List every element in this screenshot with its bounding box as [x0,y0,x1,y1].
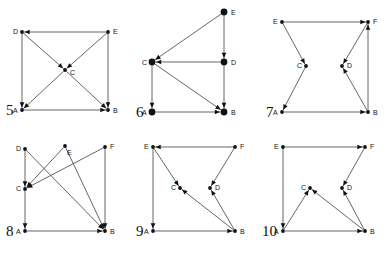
node-label-C: C [142,59,147,66]
node-dot-C [178,186,182,190]
arrowhead-D-to-A [20,102,25,107]
arrowhead-A-to-B [227,229,232,234]
node-E[interactable]: E [63,144,72,156]
edge-E-to-C [283,24,305,65]
node-E[interactable]: E [221,9,236,16]
graph-canvas-9: ABCDEF9 [130,136,260,272]
node-F[interactable]: F [233,143,244,150]
node-B[interactable]: B [363,228,375,235]
figure-number-5: 5 [6,102,14,118]
node-label-E: E [144,143,149,150]
node-D[interactable]: D [208,184,220,191]
node-dot-A [280,110,284,114]
edge-A-to-B [24,108,106,113]
node-dot-E [281,145,285,149]
edge-F-to-E [155,145,233,150]
node-label-D: D [215,184,220,191]
edge-D-to-A [20,34,25,108]
edge-E-to-D [222,15,227,58]
node-label-D: D [16,145,21,152]
figure-number-8: 8 [6,223,14,239]
node-dot-A [23,229,27,233]
arrowhead-A-to-B [357,229,362,234]
edge-E-to-C [66,33,106,68]
figure-number-7: 7 [266,104,274,120]
node-dot-F [103,145,107,149]
graph-figure-8: ABCDEF8 [0,136,130,272]
node-D[interactable]: D [221,59,236,66]
graph-figure-7: ABCDEF7 [260,0,389,136]
edge-E-to-F [284,20,366,25]
node-dot-C [23,187,27,191]
node-label-F: F [110,143,114,150]
arrowhead-D-to-C [23,181,28,186]
node-D[interactable]: D [340,62,352,69]
arrowhead-E-to-F [360,20,365,25]
node-label-C: C [16,185,21,192]
node-dot-E [151,145,155,149]
edge-F-to-D [343,149,364,187]
node-label-D: D [347,184,352,191]
arrowhead-E-to-B [106,102,111,107]
node-F[interactable]: F [363,143,374,150]
node-C[interactable]: C [297,62,308,69]
node-dot-D [340,186,344,190]
figure-sheet: ABCDE5ABCDE6ABCDEF7ABCDEF8ABCDEF9ABCDEF1… [0,0,389,273]
node-dot-A [149,109,156,116]
arrowhead-F-to-E [156,145,161,150]
edge-E-to-A [281,149,286,229]
node-A[interactable]: A [142,109,155,116]
node-D[interactable]: D [340,184,352,191]
edge-E-to-C [155,14,221,60]
node-dot-E [63,144,67,148]
node-label-C: C [301,184,306,191]
graph-canvas-7: ABCDEF7 [260,0,389,136]
node-dot-D [20,30,24,34]
node-label-D: D [347,62,352,69]
arrowhead-A-to-B [97,229,102,234]
graph-figure-9: ABCDEF9 [130,136,260,272]
node-C[interactable]: C [301,184,312,191]
node-dot-D [221,59,228,66]
node-dot-C [149,59,156,66]
node-A[interactable]: A [273,109,284,116]
node-label-B: B [373,109,378,116]
node-dot-A [281,229,285,233]
edge-E-to-F [285,145,363,150]
edge-B-to-C [311,189,363,230]
node-label-B: B [231,109,236,116]
node-E[interactable]: E [273,18,284,25]
edge-E-to-B [66,148,104,230]
arrowhead-C-to-A [23,223,28,228]
node-dot-C [63,68,67,72]
edge-E-to-C [154,149,179,187]
node-B[interactable]: B [233,228,245,235]
node-C[interactable]: C [142,59,155,66]
edge-B-to-D [211,190,234,230]
graph-canvas-6: ABCDE6 [130,0,260,136]
edge-E-to-B [106,34,111,108]
edge-B-to-D [343,190,364,230]
node-dot-B [106,108,110,112]
edge-A-to-B [284,110,366,115]
node-label-A: A [144,228,149,235]
node-C[interactable]: C [171,184,182,191]
node-label-C: C [70,69,75,76]
graph-canvas-5: ABCDE5 [0,0,130,136]
node-C[interactable]: C [63,68,75,76]
node-dot-E [280,20,284,24]
node-B[interactable]: B [221,109,236,116]
node-label-E: E [273,18,278,25]
node-label-B: B [110,228,115,235]
node-dot-F [363,145,367,149]
node-dot-D [23,147,27,151]
node-dot-C [304,64,308,68]
node-dot-E [106,30,110,34]
edge-B-to-F [366,24,371,110]
graph-figure-10: ABCDEF10 [260,136,389,272]
arrowhead-D-to-C [156,60,161,65]
node-dot-E [221,9,228,16]
node-label-E: E [113,28,118,35]
edge-F-to-D [211,149,234,187]
edge-C-to-B [155,64,221,110]
